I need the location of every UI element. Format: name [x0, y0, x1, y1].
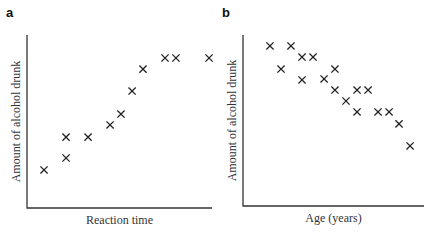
scatter-figure: Reaction time Amount of alcohol drunk Ag… — [0, 0, 431, 232]
x-marker-point — [331, 65, 338, 72]
x-marker-point — [385, 108, 392, 115]
x-marker-point — [62, 133, 69, 140]
chart-b-points — [266, 42, 413, 149]
x-marker-point — [161, 54, 168, 61]
x-marker-point — [298, 76, 305, 83]
x-marker-point — [353, 86, 360, 93]
x-marker-point — [205, 54, 212, 61]
chart-b: Age (years) Amount of alcohol drunk — [225, 35, 424, 225]
x-marker-point — [117, 110, 124, 117]
chart-a-axes — [27, 35, 212, 208]
x-marker-point — [395, 120, 402, 127]
x-marker-point — [40, 166, 47, 173]
x-marker-point — [287, 42, 294, 49]
chart-b-ylabel: Amount of alcohol drunk — [225, 60, 239, 182]
x-marker-point — [128, 87, 135, 94]
x-marker-point — [309, 53, 316, 60]
x-marker-point — [320, 75, 327, 82]
chart-a-points — [40, 54, 212, 173]
x-marker-point — [342, 97, 349, 104]
x-marker-point — [331, 86, 338, 93]
x-marker-point — [106, 121, 113, 128]
chart-a-ylabel: Amount of alcohol drunk — [9, 61, 23, 183]
x-marker-point — [298, 53, 305, 60]
chart-a-xlabel: Reaction time — [86, 213, 153, 227]
x-marker-point — [266, 42, 273, 49]
x-marker-point — [139, 65, 146, 72]
chart-a: Reaction time Amount of alcohol drunk — [9, 35, 213, 227]
x-marker-point — [406, 142, 413, 149]
x-marker-point — [277, 65, 284, 72]
x-marker-point — [172, 54, 179, 61]
x-marker-point — [62, 154, 69, 161]
chart-b-axes — [243, 35, 424, 206]
x-marker-point — [374, 108, 381, 115]
x-marker-point — [84, 133, 91, 140]
x-marker-point — [364, 86, 371, 93]
x-marker-point — [353, 108, 360, 115]
chart-b-xlabel: Age (years) — [305, 211, 361, 225]
